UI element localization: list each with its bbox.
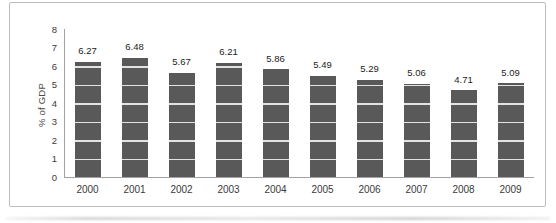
y-tick-label-3: 3 (29, 116, 57, 128)
bar-value-label-2004: 5.86 (254, 53, 298, 65)
bar-2002 (169, 73, 195, 178)
bar-2006 (357, 80, 383, 178)
bar-value-label-2009: 5.09 (489, 67, 533, 79)
x-tick-label-2007: 2007 (394, 184, 440, 196)
bar-2003 (216, 63, 242, 178)
y-tick-label-2: 2 (29, 135, 57, 147)
bar-2004 (263, 69, 289, 177)
x-tick-label-2000: 2000 (65, 184, 111, 196)
gdp-bar-chart-figure: % of GDP 012345678 6.276.485.676.215.865… (0, 0, 556, 223)
x-tick-label-2008: 2008 (441, 184, 487, 196)
y-tick-label-6: 6 (29, 61, 57, 73)
bar-2009 (498, 83, 524, 177)
x-tick-label-2003: 2003 (206, 184, 252, 196)
y-tick-label-1: 1 (29, 153, 57, 165)
y-tick-label-4: 4 (29, 98, 57, 110)
y-tick-label-8: 8 (29, 24, 57, 36)
bar-value-label-2000: 6.27 (66, 45, 110, 57)
y-tick-label-5: 5 (29, 79, 57, 91)
x-tick-label-2006: 2006 (347, 184, 393, 196)
bar-value-label-2007: 5.06 (395, 67, 439, 79)
x-tick-label-2001: 2001 (112, 184, 158, 196)
bar-2001 (122, 58, 148, 178)
bar-value-label-2001: 6.48 (113, 41, 157, 53)
scan-edge-artifact (6, 217, 550, 220)
y-tick-label-0: 0 (29, 172, 57, 184)
bar-2005 (310, 76, 336, 178)
x-tick-label-2004: 2004 (253, 184, 299, 196)
bar-2000 (75, 62, 101, 178)
bar-value-label-2008: 4.71 (442, 74, 486, 86)
y-tick-label-7: 7 (29, 42, 57, 54)
bar-2007 (404, 84, 430, 178)
bar-value-label-2003: 6.21 (207, 46, 251, 58)
x-tick-label-2002: 2002 (159, 184, 205, 196)
bar-value-label-2002: 5.67 (160, 56, 204, 68)
bar-value-label-2006: 5.29 (348, 63, 392, 75)
x-tick-label-2009: 2009 (488, 184, 534, 196)
bar-value-label-2005: 5.49 (301, 59, 345, 71)
x-tick-label-2005: 2005 (300, 184, 346, 196)
bar-2008 (451, 90, 477, 177)
